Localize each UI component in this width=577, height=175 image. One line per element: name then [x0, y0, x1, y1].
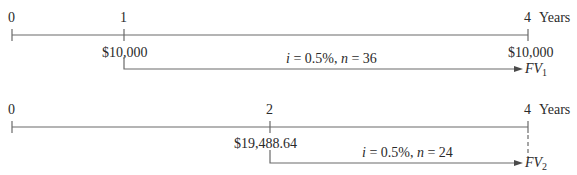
arrowhead-icon — [514, 66, 523, 72]
rate-i-value: = 0.5%, — [366, 145, 417, 160]
fv-text: FV — [525, 61, 542, 76]
timeline-2-fv-label: FV2 — [525, 156, 547, 174]
timeline-1-fv-label: FV1 — [525, 62, 547, 80]
timeline-2-amount-year-2: $19,488.64 — [234, 137, 297, 151]
timeline-1-amount-year-4: $10,000 — [508, 46, 554, 60]
fv-subscript: 1 — [542, 67, 547, 78]
rate-n-value: = 36 — [348, 51, 377, 66]
rate-n-symbol: n — [341, 51, 348, 66]
rate-n-symbol: n — [417, 145, 424, 160]
rate-i-value: = 0.5%, — [290, 51, 341, 66]
rate-n-value: = 24 — [424, 145, 453, 160]
timeline-1-label-0: 0 — [8, 11, 15, 25]
timeline-1-rate-label: i = 0.5%, n = 36 — [286, 52, 377, 66]
timeline-1-unit-label: Years — [539, 11, 570, 25]
timeline-2-label-2: 2 — [266, 103, 273, 117]
timeline-1 — [12, 29, 528, 69]
timeline-2-label-4: 4 — [524, 103, 531, 117]
fv-text: FV — [525, 155, 542, 170]
timeline-2-label-0: 0 — [8, 103, 15, 117]
timeline-2-unit-label: Years — [539, 103, 570, 117]
timeline-1-label-4: 4 — [524, 11, 531, 25]
timeline-1-amount-year-1: $10,000 — [102, 46, 148, 60]
timeline-1-label-1: 1 — [120, 11, 127, 25]
fv-subscript: 2 — [542, 161, 547, 172]
arrowhead-icon — [514, 160, 523, 166]
timeline-2-rate-label: i = 0.5%, n = 24 — [362, 146, 453, 160]
